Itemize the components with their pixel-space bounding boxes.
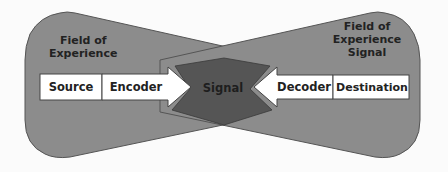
left-field-label: Field of Experience [58, 34, 117, 60]
left-field-label-line2: Experience [49, 47, 117, 60]
encoder-label: Encoder [104, 74, 168, 100]
left-field-label-line1: Field of [58, 34, 117, 47]
right-field-label: Field of Experience Signal [330, 20, 404, 59]
right-field-label-line2: Experience [330, 33, 404, 46]
signal-label: Signal [195, 75, 251, 101]
source-label: Source [40, 74, 102, 100]
communication-diagram: Field of Experience Field of Experience … [0, 0, 448, 172]
destination-label: Destination [334, 74, 410, 100]
decoder-label: Decoder [275, 74, 333, 100]
right-field-label-line3: Signal [330, 46, 404, 59]
right-field-label-line1: Field of [330, 20, 404, 33]
